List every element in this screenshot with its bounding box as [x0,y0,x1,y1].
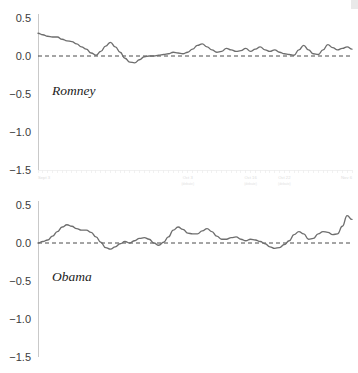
y-axis-tick-label: 0.5 [16,199,31,211]
y-axis-tick-label: −1.5 [9,351,31,363]
two-panel-line-chart-figure: 0.50.0−0.5−1.0−1.5Sept 3Oct 3(debate)Oct… [0,0,358,373]
x-axis-tick-label: Oct 3 [183,175,194,180]
x-axis-tick-label: Oct 22 [278,175,291,180]
series-name-label: Romney [51,83,95,98]
y-axis-tick-label: −1.0 [9,313,31,325]
chart-panel-obama: 0.50.0−0.5−1.0−1.5Obama [0,185,358,373]
y-axis-tick-label: −1.0 [9,126,31,138]
x-axis-tick-label: Oct 16 [244,175,257,180]
chart-panel-romney: 0.50.0−0.5−1.0−1.5Sept 3Oct 3(debate)Oct… [0,0,358,190]
data-series-line [38,33,352,63]
obama-plot-svg: 0.50.0−0.5−1.0−1.5Obama [0,185,358,373]
y-axis-tick-label: 0.0 [16,50,31,62]
scrollbar-corner-mark [351,0,358,9]
y-axis-tick-label: 0.5 [16,12,31,24]
romney-plot-svg: 0.50.0−0.5−1.0−1.5Sept 3Oct 3(debate)Oct… [0,0,358,190]
series-name-label: Obama [52,269,92,284]
y-axis-tick-label: −1.5 [9,164,31,176]
y-axis-tick-label: −0.5 [9,88,31,100]
y-axis-tick-label: 0.0 [16,237,31,249]
data-series-line [38,216,352,249]
x-axis-tick-label: Sept 3 [38,175,51,180]
x-axis-tick-label: Nov 6 [341,175,353,180]
y-axis-tick-label: −0.5 [9,275,31,287]
